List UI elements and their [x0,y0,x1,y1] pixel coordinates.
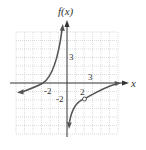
y-tick-label-neg: -2 [56,94,64,104]
left-branch-curve [17,24,65,95]
curve-arrow-icon [17,89,24,94]
y-axis-label: f(x) [58,5,74,18]
function-graph: f(x) x 3 3 -2 -2 2 [0,0,146,150]
curve-arrow-icon [67,122,72,129]
x-axis-label: x [130,77,136,89]
hole-x-label: 2 [80,87,85,97]
y-axis-arrow-icon [65,20,70,27]
curve-arrow-icon [115,81,122,86]
x-tick-label-neg: -2 [44,86,52,96]
open-circle-hole [83,97,87,101]
x-axis-arrow-icon [122,81,129,86]
y-tick-label-pos: 3 [69,52,74,62]
curve-arrow-icon [60,24,65,31]
y-axis [65,20,70,137]
right-branch-curve [67,81,121,129]
x-tick-label-pos: 3 [88,72,93,82]
